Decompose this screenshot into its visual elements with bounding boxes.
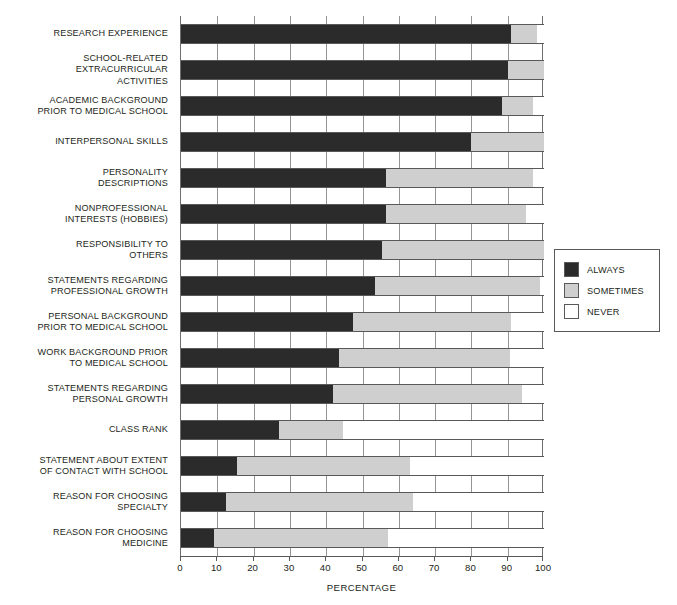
- legend-label-sometimes: SOMETIMES: [587, 286, 644, 296]
- stacked-bar: [181, 456, 544, 476]
- bar-row: [181, 412, 544, 448]
- bar-segment-sometimes: [386, 205, 526, 223]
- legend-swatch-always-icon: [564, 262, 579, 277]
- x-tick-label: 50: [356, 562, 367, 573]
- x-tick-70: [434, 556, 435, 561]
- x-axis-title: PERCENTAGE: [180, 582, 543, 593]
- bar-segment-never: [413, 493, 544, 511]
- bar-segment-sometimes: [375, 277, 540, 295]
- x-tick-label: 100: [535, 562, 551, 573]
- stacked-bar: [181, 132, 544, 152]
- bar-segment-sometimes: [339, 349, 510, 367]
- bar-segment-never: [511, 313, 544, 331]
- x-tick-80: [470, 556, 471, 561]
- bar-segment-always: [181, 133, 471, 151]
- stacked-bar: [181, 384, 544, 404]
- bar-row: [181, 88, 544, 124]
- legend-label-always: ALWAYS: [587, 265, 625, 275]
- bar-row: [181, 448, 544, 484]
- bar-segment-always: [181, 205, 386, 223]
- category-label: STATEMENT ABOUT EXTENT OF CONTACT WITH S…: [0, 455, 168, 478]
- category-label: SCHOOL-RELATED EXTRACURRICULAR ACTIVITIE…: [0, 53, 168, 87]
- stacked-bar: [181, 60, 544, 80]
- plot-area: [180, 16, 543, 556]
- legend-item-always: ALWAYS: [564, 259, 651, 280]
- x-tick-label: 0: [177, 562, 182, 573]
- x-tick-60: [398, 556, 399, 561]
- category-label: STATEMENTS REGARDING PERSONAL GROWTH: [0, 383, 168, 406]
- bar-row: [181, 196, 544, 232]
- bar-segment-sometimes: [333, 385, 522, 403]
- category-label: RESPONSIBILITY TO OTHERS: [0, 239, 168, 262]
- bar-segment-always: [181, 169, 386, 187]
- bar-row: [181, 340, 544, 376]
- bar-segment-always: [181, 61, 508, 79]
- bar-segment-sometimes: [279, 421, 343, 439]
- category-label: NONPROFESSIONAL INTERESTS (HOBBIES): [0, 203, 168, 226]
- category-label: PERSONALITY DESCRIPTIONS: [0, 167, 168, 190]
- chart-legend: ALWAYS SOMETIMES NEVER: [554, 249, 660, 332]
- category-label: INTERPERSONAL SKILLS: [0, 136, 168, 147]
- bar-segment-never: [533, 169, 544, 187]
- bar-segment-sometimes: [386, 169, 533, 187]
- x-tick-100: [542, 556, 543, 561]
- x-tick-label: 80: [465, 562, 476, 573]
- x-tick-label: 10: [211, 562, 222, 573]
- stacked-bar: [181, 492, 544, 512]
- bar-row: [181, 16, 544, 52]
- x-axis: 0102030405060708090100: [180, 556, 543, 568]
- x-tick-label: 40: [320, 562, 331, 573]
- bar-row: [181, 520, 544, 556]
- bar-row: [181, 232, 544, 268]
- stacked-bar: [181, 276, 544, 296]
- bar-segment-always: [181, 277, 375, 295]
- x-tick-label: 30: [284, 562, 295, 573]
- x-tick-50: [362, 556, 363, 561]
- bar-segment-never: [388, 529, 544, 547]
- bar-segment-never: [537, 25, 544, 43]
- bar-segment-always: [181, 457, 237, 475]
- bar-segment-sometimes: [214, 529, 388, 547]
- bar-row: [181, 376, 544, 412]
- category-label-column: RESEARCH EXPERIENCESCHOOL-RELATED EXTRAC…: [0, 16, 176, 556]
- bar-segment-sometimes: [502, 97, 533, 115]
- bar-segment-sometimes: [237, 457, 409, 475]
- stacked-bar: [181, 24, 544, 44]
- bar-segment-sometimes: [511, 25, 536, 43]
- bar-row: [181, 268, 544, 304]
- category-label: PERSONAL BACKGROUND PRIOR TO MEDICAL SCH…: [0, 311, 168, 334]
- x-tick-0: [180, 556, 181, 561]
- x-tick-30: [289, 556, 290, 561]
- x-tick-90: [507, 556, 508, 561]
- bar-segment-never: [510, 349, 544, 367]
- bar-segment-always: [181, 241, 382, 259]
- stacked-bar: [181, 420, 544, 440]
- category-label: ACADEMIC BACKGROUND PRIOR TO MEDICAL SCH…: [0, 95, 168, 118]
- legend-swatch-sometimes-icon: [564, 283, 579, 298]
- x-tick-10: [216, 556, 217, 561]
- stacked-bar: [181, 168, 544, 188]
- bar-segment-never: [522, 385, 544, 403]
- x-tick-40: [325, 556, 326, 561]
- bar-segment-always: [181, 349, 339, 367]
- bar-row: [181, 52, 544, 88]
- legend-item-never: NEVER: [564, 301, 651, 322]
- x-tick-20: [253, 556, 254, 561]
- bar-segment-always: [181, 529, 214, 547]
- legend-label-never: NEVER: [587, 307, 620, 317]
- bar-segment-sometimes: [382, 241, 544, 259]
- bar-segment-never: [526, 205, 544, 223]
- x-tick-label: 90: [501, 562, 512, 573]
- bar-segment-always: [181, 421, 279, 439]
- bar-row: [181, 484, 544, 520]
- bar-segment-always: [181, 493, 226, 511]
- stacked-bar: [181, 240, 544, 260]
- legend-swatch-never-icon: [564, 304, 579, 319]
- stacked-bar: [181, 528, 544, 548]
- stacked-bar: [181, 96, 544, 116]
- stacked-bar: [181, 204, 544, 224]
- bar-segment-sometimes: [353, 313, 511, 331]
- category-label: RESEARCH EXPERIENCE: [0, 28, 168, 39]
- legend-item-sometimes: SOMETIMES: [564, 280, 651, 301]
- category-label: WORK BACKGROUND PRIOR TO MEDICAL SCHOOL: [0, 347, 168, 370]
